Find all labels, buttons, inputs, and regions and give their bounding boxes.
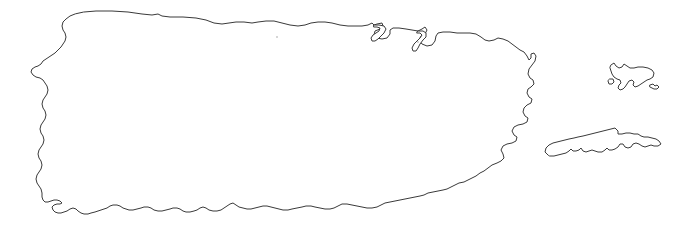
speck-north-central [276,36,278,38]
puerto-rico-outline-map [0,0,681,227]
culebra-islet-west [608,79,614,84]
map-canvas [0,0,681,227]
speck-north-east [417,41,419,43]
